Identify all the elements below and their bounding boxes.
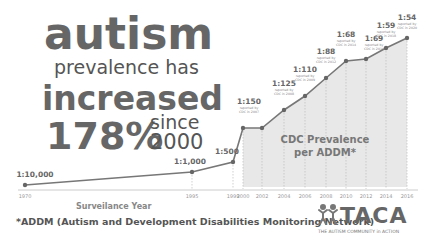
logo-taca: TACA bbox=[340, 205, 408, 227]
point-note: CDC in 2020 bbox=[397, 26, 417, 30]
data-point bbox=[324, 76, 328, 80]
x-tick-label: 2012 bbox=[360, 193, 373, 199]
region-label: per ADDM* bbox=[294, 147, 357, 158]
point-label: 1:88 bbox=[317, 47, 336, 56]
point-note: CDC in 2018 bbox=[376, 34, 396, 38]
data-point bbox=[190, 170, 194, 174]
x-tick-label: 2010 bbox=[340, 193, 353, 199]
point-label: 1:10,000 bbox=[16, 170, 53, 179]
x-tick-label: 2008 bbox=[320, 193, 333, 199]
x-tick-label: 2002 bbox=[256, 193, 269, 199]
point-label: 1:1,000 bbox=[174, 157, 206, 166]
point-label: 1:110 bbox=[293, 65, 317, 74]
point-label: 1:125 bbox=[272, 79, 296, 88]
point-note: CDC in 2008 bbox=[274, 92, 294, 96]
point-note: CDC in 2007 bbox=[239, 110, 259, 114]
people-figures-icon bbox=[318, 204, 340, 226]
data-point bbox=[384, 46, 388, 50]
x-tick-label: 1970 bbox=[19, 193, 32, 199]
data-point bbox=[241, 126, 245, 130]
x-tick-label: 2004 bbox=[278, 193, 291, 199]
point-note: CDC in 2014 bbox=[336, 43, 356, 47]
data-point bbox=[282, 108, 286, 112]
region-label: CDC Prevalence bbox=[281, 134, 370, 145]
data-point bbox=[260, 126, 264, 130]
point-note: CDC in 2016 bbox=[364, 47, 384, 51]
data-point bbox=[231, 160, 235, 164]
x-tick-label: 2014 bbox=[380, 193, 393, 199]
point-label: 1:54 bbox=[398, 13, 417, 22]
data-point bbox=[344, 59, 348, 63]
x-tick-label: 1995 bbox=[186, 193, 199, 199]
point-label: 1:68 bbox=[337, 30, 356, 39]
x-axis-title: Surveilance Year bbox=[76, 202, 151, 211]
point-label: 1:150 bbox=[237, 97, 261, 106]
x-tick-label: 2000 bbox=[237, 193, 250, 199]
x-tick-label: 2006 bbox=[299, 193, 312, 199]
data-point bbox=[405, 36, 409, 40]
point-note: CDC in 2012 bbox=[316, 60, 336, 64]
data-point bbox=[364, 57, 368, 61]
point-label: 1:500 bbox=[215, 147, 239, 156]
data-point bbox=[303, 94, 307, 98]
data-point bbox=[23, 183, 27, 187]
point-note: CDC in 2009 bbox=[295, 78, 315, 82]
x-tick-label: 2016 bbox=[401, 193, 414, 199]
logo-tagline: THE AUTISM COMMUNITY in ACTION bbox=[318, 229, 399, 234]
point-label: 1:59 bbox=[377, 21, 396, 30]
